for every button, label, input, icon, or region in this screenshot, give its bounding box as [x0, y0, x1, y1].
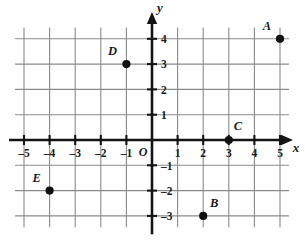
axes [9, 12, 293, 234]
y-axis-label: y [155, 0, 163, 15]
point-label: B [209, 196, 218, 210]
x-tick-label: –3 [68, 147, 81, 159]
x-tick-label: 3 [226, 147, 232, 159]
x-tick-label: –1 [120, 147, 133, 159]
point-label: C [234, 119, 243, 133]
graph-canvas: –5–4–3–2–112345–3–2–11234 Oxy ABCDE [0, 0, 305, 244]
point-marker [276, 35, 284, 43]
y-tick-label: –3 [160, 210, 173, 222]
x-axis-arrow [281, 135, 293, 145]
x-axis-label: x [292, 140, 300, 155]
y-tick-label: 3 [161, 58, 167, 70]
x-tick-label: –4 [43, 147, 56, 159]
tick-labels: –5–4–3–2–112345–3–2–11234 [17, 33, 283, 222]
point-marker [225, 136, 233, 144]
y-axis-arrow [147, 12, 157, 24]
x-tick-label: 5 [277, 147, 283, 159]
point-label: D [107, 44, 117, 58]
x-tick-label: –2 [94, 147, 107, 159]
x-tick-label: 1 [175, 147, 181, 159]
y-tick-label: –2 [160, 185, 173, 197]
point-label: E [31, 171, 40, 185]
point-label: A [262, 19, 271, 33]
y-tick-label: 1 [161, 109, 167, 121]
x-tick-label: 2 [200, 147, 206, 159]
y-tick-label: 2 [161, 84, 167, 96]
x-tick-label: –5 [17, 147, 30, 159]
y-tick-label: –1 [160, 160, 173, 172]
point-marker [46, 187, 54, 195]
axis-names: Oxy [139, 0, 300, 159]
point-marker [122, 60, 130, 68]
plotted-points: ABCDE [31, 19, 284, 220]
x-tick-label: 4 [252, 147, 258, 159]
y-tick-label: 4 [161, 33, 167, 45]
coordinate-plane-graph: –5–4–3–2–112345–3–2–11234 Oxy ABCDE [0, 0, 305, 244]
origin-label: O [139, 145, 148, 159]
point-marker [199, 212, 207, 220]
